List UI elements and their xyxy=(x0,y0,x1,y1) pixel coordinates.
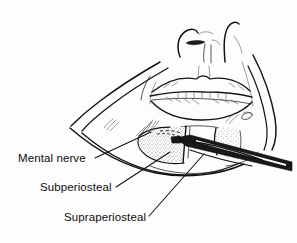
nose-right-shadow xyxy=(234,36,242,53)
lips xyxy=(150,66,252,120)
anatomy-figure: Mental nerve Subperiosteal Supraperioste… xyxy=(0,0,297,243)
upper-lip-border xyxy=(152,76,250,92)
cheek-fold-right xyxy=(242,62,253,106)
lower-lip-border xyxy=(151,101,252,120)
label-subperiosteal: Subperiosteal xyxy=(40,181,112,193)
nostril-right-edge xyxy=(212,40,220,45)
label-supraperiosteal: Supraperiosteal xyxy=(64,211,146,223)
nostril-left xyxy=(186,41,205,45)
retractor-tip xyxy=(171,136,181,143)
nose xyxy=(178,22,242,63)
mouth-line xyxy=(150,92,252,97)
nose-columella xyxy=(204,44,205,62)
mental-foramen-right xyxy=(241,111,253,121)
nose-right-ala xyxy=(224,22,239,62)
cheek-line-left-outer xyxy=(71,62,160,126)
nose-tip-crease xyxy=(199,32,213,34)
illustration-canvas: Mental nerve Subperiosteal Supraperioste… xyxy=(0,0,297,243)
label-mental-nerve: Mental nerve xyxy=(18,152,86,164)
cheek-line-right-outer xyxy=(253,55,276,150)
